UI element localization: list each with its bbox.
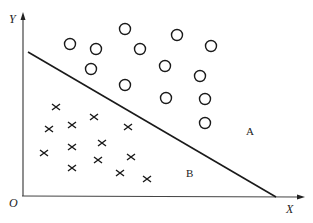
origin-label: O	[9, 196, 18, 210]
cross-point-icon	[94, 157, 102, 163]
x-axis-label: X	[285, 202, 294, 216]
cross-point-icon	[45, 126, 53, 132]
circle-point-icon	[160, 61, 171, 72]
decision-boundary-line	[28, 52, 276, 197]
cross-point-icon	[68, 165, 76, 171]
y-axis-arrow-icon	[21, 12, 26, 20]
circle-point-icon	[200, 94, 211, 105]
region-b-label: B	[186, 167, 193, 179]
circle-point-icon	[120, 24, 131, 35]
region-a-label: A	[246, 125, 254, 137]
axes: Y O X	[9, 12, 305, 216]
x-axis-arrow-icon	[297, 195, 305, 200]
cross-point-icon	[40, 150, 48, 156]
circle-point-icon	[120, 80, 131, 91]
cross-point-icon	[68, 122, 76, 128]
circle-point-icon	[91, 44, 102, 55]
circle-point-icon	[195, 71, 206, 82]
circle-point-icon	[161, 93, 172, 104]
cross-point-icon	[68, 144, 76, 150]
cross-point-icon	[124, 124, 132, 130]
class-b-points	[40, 104, 151, 182]
cross-point-icon	[143, 176, 151, 182]
cross-point-icon	[52, 104, 60, 110]
x-axis	[22, 196, 298, 197]
circle-point-icon	[135, 44, 146, 55]
circle-point-icon	[172, 30, 183, 41]
classification-diagram: Y O X A B	[0, 0, 313, 223]
circle-point-icon	[86, 64, 97, 75]
circle-point-icon	[200, 118, 211, 129]
y-axis-label: Y	[9, 12, 17, 26]
cross-point-icon	[98, 140, 106, 146]
circle-point-icon	[65, 39, 76, 50]
cross-point-icon	[116, 170, 124, 176]
cross-point-icon	[127, 154, 135, 160]
cross-point-icon	[90, 114, 98, 120]
circle-point-icon	[206, 41, 217, 52]
class-a-points	[65, 24, 217, 129]
